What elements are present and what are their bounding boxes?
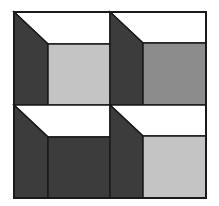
back-face — [143, 136, 206, 198]
back-face — [48, 137, 110, 198]
cell-bottom-left — [14, 105, 110, 198]
back-face — [143, 43, 206, 105]
back-face — [48, 44, 110, 105]
cube-grid-figure — [0, 0, 219, 206]
cell-bottom-right — [110, 105, 206, 198]
cell-top-right — [110, 12, 206, 105]
cell-top-left — [14, 12, 110, 105]
